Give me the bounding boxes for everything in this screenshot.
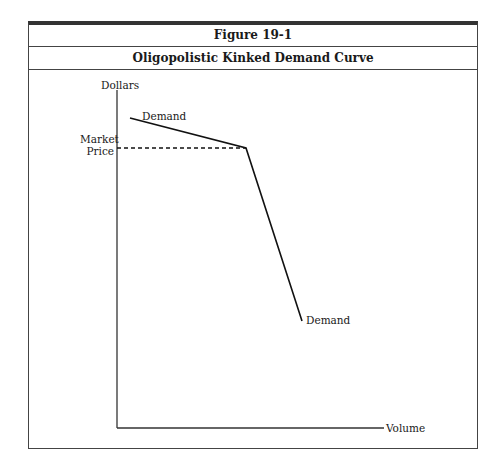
- chart-plot: [0, 0, 504, 475]
- y-axis-label: Dollars: [101, 79, 139, 91]
- market-price-label-1: Market: [80, 133, 114, 145]
- demand-label-upper: Demand: [142, 110, 186, 122]
- demand-label-lower: Demand: [306, 314, 350, 326]
- market-price-label-2: Price: [80, 145, 114, 157]
- x-axis-label: Volume: [386, 422, 425, 434]
